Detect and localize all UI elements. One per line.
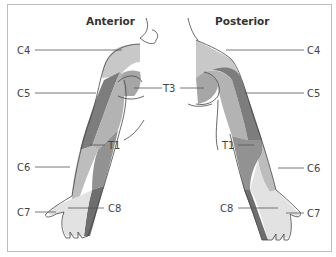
posterior-view xyxy=(188,18,300,240)
posterior-c6-label: C6 xyxy=(307,163,320,174)
posterior-neck-outline xyxy=(188,18,198,40)
posterior-t1-label: T1 xyxy=(221,140,234,151)
anterior-c6-label: C6 xyxy=(17,162,30,173)
posterior-c7-region xyxy=(250,160,299,240)
anterior-torso-outline xyxy=(124,120,144,140)
anterior-c5-label: C5 xyxy=(17,88,30,99)
anterior-view xyxy=(46,18,158,238)
anterior-title: Anterior xyxy=(86,15,136,27)
dermatome-diagram: Anterior Posterior C4 C5 T1 C6 C8 C7 T3 … xyxy=(0,0,336,257)
posterior-c7-label: C7 xyxy=(307,208,320,219)
posterior-title: Posterior xyxy=(215,15,270,27)
posterior-c8-label: C8 xyxy=(220,203,233,214)
anterior-t1-label: T1 xyxy=(107,140,120,151)
anterior-c7-label: C7 xyxy=(17,207,30,218)
posterior-torso-outline xyxy=(216,100,218,150)
anterior-neck-outline xyxy=(140,18,158,44)
posterior-c5-label: C5 xyxy=(307,88,320,99)
anterior-c8-label: C8 xyxy=(108,203,121,214)
posterior-c4-label: C4 xyxy=(307,45,320,56)
t3-label: T3 xyxy=(162,83,175,94)
anterior-c4-label: C4 xyxy=(17,45,30,56)
